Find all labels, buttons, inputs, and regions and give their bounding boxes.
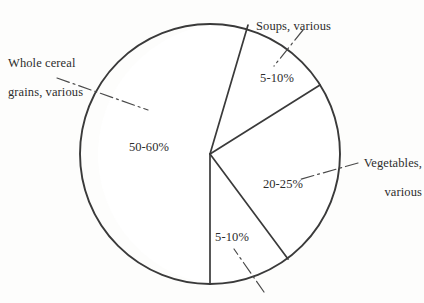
callout-label-vegetables: Vegetables, various: [340, 141, 422, 215]
slice-value-vegetables: 20-25%: [247, 177, 319, 192]
slice-value-soups: 5-10%: [243, 71, 311, 86]
callout-label-grains-line2: grains, various: [8, 85, 124, 100]
slice-value-whole-cereal-grains: 50-60%: [110, 140, 188, 155]
callout-label-bottom-cropped: [236, 291, 422, 303]
slice-value-bottom: 5-10%: [198, 230, 266, 245]
callout-label-soups: Soups, various: [256, 4, 386, 48]
pie-chart-figure: Whole cereal grains, various Soups, vari…: [0, 0, 424, 303]
callout-label-grains-line1: Whole cereal: [8, 56, 124, 71]
callout-label-vegetables-line2: various: [340, 185, 422, 200]
callout-label-whole-cereal-grains: Whole cereal grains, various: [8, 41, 124, 115]
callout-label-soups-line1: Soups, various: [256, 19, 386, 34]
callout-label-vegetables-line1: Vegetables,: [340, 156, 422, 171]
